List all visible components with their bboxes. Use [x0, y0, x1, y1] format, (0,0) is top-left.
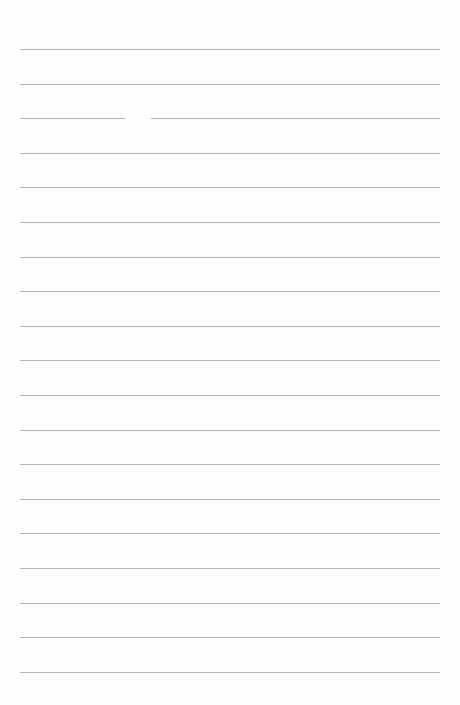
ruled-line [20, 84, 440, 85]
ruled-line [20, 499, 440, 500]
ruled-line [20, 291, 440, 292]
ruled-line [20, 603, 440, 604]
ruled-line [20, 153, 440, 154]
ruled-line [20, 257, 440, 258]
ruled-line [20, 395, 440, 396]
ruled-line [20, 430, 440, 431]
ruled-line [20, 222, 440, 223]
ruled-line [20, 672, 440, 673]
ruled-line [20, 326, 440, 327]
ruled-line [20, 360, 440, 361]
ruled-line [20, 49, 440, 50]
ruled-line [20, 533, 440, 534]
lined-paper-page [0, 0, 460, 705]
ruled-line [20, 118, 440, 119]
ruled-line [20, 187, 440, 188]
ruled-line [20, 568, 440, 569]
ruled-line [20, 464, 440, 465]
ruled-line [20, 637, 440, 638]
